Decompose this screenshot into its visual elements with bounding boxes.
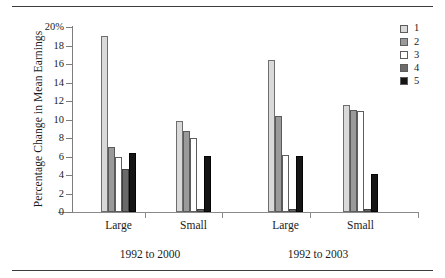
x-axis-tick	[222, 212, 223, 218]
legend-item-3[interactable]: 3	[400, 48, 444, 61]
bar-series-2-group-3	[275, 116, 282, 212]
y-axis-tick	[66, 212, 73, 213]
x-axis-tick	[145, 212, 146, 218]
bar-series-1-group-3	[268, 60, 275, 212]
x-axis-group-label: Small	[316, 219, 406, 231]
chart-legend: 12345	[400, 22, 444, 88]
legend-item-5[interactable]: 5	[400, 75, 444, 88]
legend-item-1[interactable]: 1	[400, 22, 444, 35]
y-axis-tick	[66, 138, 73, 139]
bar-series-5-group-2	[204, 156, 211, 212]
x-axis-line	[58, 212, 418, 213]
bar-series-1-group-1	[101, 36, 108, 212]
bar-series-5-group-3	[296, 156, 303, 212]
legend-item-label: 5	[414, 76, 419, 87]
bar-series-3-group-1	[115, 157, 122, 213]
y-axis-tick	[66, 83, 73, 84]
bar-series-4-group-4	[364, 209, 371, 212]
y-axis-tick	[66, 120, 73, 121]
legend-swatch-icon	[400, 64, 408, 72]
legend-item-label: 4	[414, 63, 419, 74]
legend-item-label: 3	[414, 50, 419, 61]
bar-series-3-group-3	[282, 155, 289, 212]
bar-series-2-group-1	[108, 147, 115, 212]
bar-series-2-group-4	[350, 110, 357, 212]
y-axis-tick	[66, 27, 73, 28]
bar-series-5-group-4	[371, 174, 378, 212]
legend-item-label: 1	[414, 23, 419, 34]
y-axis-tick-label: 6	[4, 152, 64, 163]
x-axis-tick	[310, 212, 311, 218]
bar-series-4-group-1	[122, 169, 129, 212]
legend-item-label: 2	[414, 37, 419, 48]
y-axis-tick-label: 0	[4, 207, 64, 218]
bar-series-4-group-3	[289, 209, 296, 212]
x-axis-tick	[418, 212, 419, 218]
legend-item-4[interactable]: 4	[400, 62, 444, 75]
bar-series-1-group-2	[176, 121, 183, 212]
bar-series-3-group-2	[190, 138, 197, 212]
legend-swatch-icon	[400, 77, 408, 85]
figure-container: Percentage Change in Mean Earnings 20%18…	[0, 0, 445, 278]
y-axis-tick	[66, 64, 73, 65]
y-axis-tick-label: 16	[4, 59, 64, 70]
y-axis-tick	[66, 194, 73, 195]
bar-series-2-group-2	[183, 131, 190, 212]
legend-swatch-icon	[400, 38, 408, 46]
legend-swatch-icon	[400, 51, 408, 59]
x-axis-group-label: Small	[149, 219, 239, 231]
bar-series-1-group-4	[343, 105, 350, 212]
y-axis-tick-label: 4	[4, 170, 64, 181]
bar-series-4-group-2	[197, 209, 204, 212]
y-axis-tick	[66, 46, 73, 47]
y-axis-tick	[66, 101, 73, 102]
y-axis-tick-label: 2	[4, 189, 64, 200]
y-axis-tick-label: 8	[4, 133, 64, 144]
legend-swatch-icon	[400, 25, 408, 33]
bar-series-5-group-1	[129, 153, 136, 212]
y-axis-tick-label: 18	[4, 41, 64, 52]
period-label: 1992 to 2003	[228, 248, 408, 260]
bar-series-3-group-4	[357, 111, 364, 212]
y-axis-tick-label: 12	[4, 96, 64, 107]
legend-item-2[interactable]: 2	[400, 35, 444, 48]
period-label: 1992 to 2000	[60, 248, 240, 260]
y-axis-tick	[66, 175, 73, 176]
y-axis-tick	[66, 157, 73, 158]
y-axis-tick-label: 14	[4, 78, 64, 89]
bar-chart-plot-area: Percentage Change in Mean Earnings 20%18…	[0, 0, 445, 278]
y-axis-tick-label: 20%	[4, 22, 64, 33]
y-axis-tick-label: 10	[4, 115, 64, 126]
